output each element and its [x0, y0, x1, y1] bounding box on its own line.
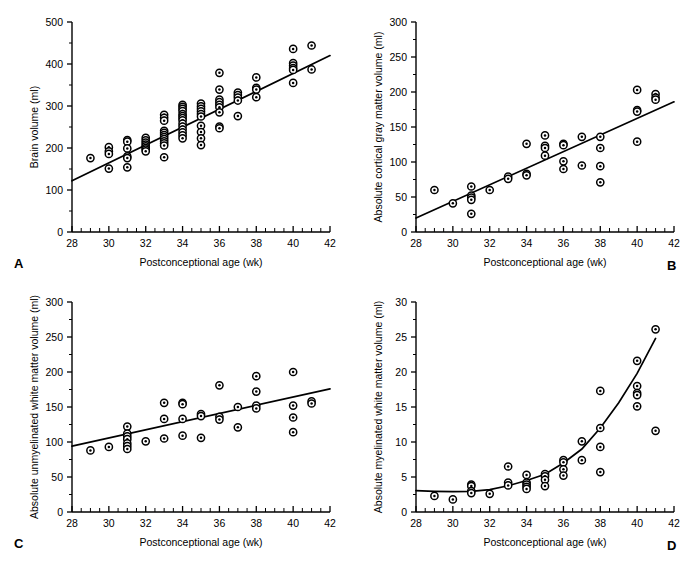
data-point-marker [216, 125, 223, 132]
y-tick-label: 0 [401, 506, 407, 518]
data-point-marker [578, 162, 585, 169]
y-tick-label: 50 [51, 471, 63, 483]
y-axis-title: Absolute cortical gray matter volume (ml… [372, 32, 384, 223]
data-point-marker [253, 373, 260, 380]
data-point-marker [234, 424, 241, 431]
x-tick-label: 32 [140, 237, 152, 249]
data-point-marker [216, 69, 223, 76]
y-tick-label: 50 [395, 191, 407, 203]
chart-panel-c: 0501001502002503002830323436384042Postco… [0, 280, 348, 563]
y-tick-label: 300 [45, 296, 63, 308]
scatter-plot-a: 01002003004005002830323436384042Postconc… [0, 0, 348, 283]
y-tick-label: 10 [395, 436, 407, 448]
scatter-plot-c: 0501001502002503002830323436384042Postco… [0, 280, 348, 563]
data-point-marker [161, 399, 168, 406]
data-point-marker [234, 97, 241, 104]
data-point-marker [578, 133, 585, 140]
data-point-marker [124, 423, 131, 430]
data-point-marker [578, 457, 585, 464]
y-tick-label: 0 [401, 226, 407, 238]
x-tick-label: 42 [668, 237, 680, 249]
data-point-marker [124, 145, 131, 152]
x-tick-label: 34 [521, 237, 533, 249]
data-point-marker [560, 142, 567, 149]
y-tick-label: 0 [57, 226, 63, 238]
figure-panel-grid: 01002003004005002830323436384042Postconc… [0, 0, 698, 563]
data-point-marker [597, 144, 604, 151]
data-point-marker [634, 108, 641, 115]
scatter-plot-d: 0510152025302830323436384042Postconcepti… [344, 280, 692, 563]
data-point-marker [87, 154, 94, 161]
x-tick-label: 36 [558, 517, 570, 529]
data-point-marker [597, 424, 604, 431]
x-axis-ticks: 2830323436384042 [66, 226, 336, 249]
data-point-marker [290, 402, 297, 409]
data-point-marker [652, 427, 659, 434]
x-axis-ticks: 2830323436384042 [66, 506, 336, 529]
data-point-marker [142, 438, 149, 445]
x-tick-label: 40 [631, 517, 643, 529]
y-tick-label: 150 [389, 121, 407, 133]
data-point-marker [234, 112, 241, 119]
data-point-marker [449, 200, 456, 207]
y-axis-title: Brain volume (ml) [28, 86, 40, 168]
y-tick-label: 250 [45, 331, 63, 343]
x-axis-ticks: 2830323436384042 [410, 226, 680, 249]
x-tick-label: 38 [250, 517, 262, 529]
data-point-marker [597, 443, 604, 450]
y-tick-label: 200 [45, 366, 63, 378]
y-axis-title: Absolute unmyelinated white matter volum… [28, 295, 40, 519]
x-tick-label: 32 [484, 237, 496, 249]
chart-panel-d: 0510152025302830323436384042Postconcepti… [344, 280, 692, 563]
data-point-marker [597, 133, 604, 140]
y-tick-label: 5 [401, 471, 407, 483]
y-tick-label: 200 [45, 142, 63, 154]
data-point-marker [105, 165, 112, 172]
x-tick-label: 28 [410, 517, 422, 529]
data-point-marker [634, 86, 641, 93]
data-point-marker [468, 183, 475, 190]
data-point-marker [290, 45, 297, 52]
x-tick-label: 36 [214, 517, 226, 529]
data-point-marker [179, 401, 186, 408]
y-tick-label: 300 [389, 16, 407, 28]
data-point-marker [634, 392, 641, 399]
x-tick-label: 30 [103, 237, 115, 249]
x-tick-label: 34 [177, 517, 189, 529]
data-point-marker [290, 66, 297, 73]
data-point-marker [179, 135, 186, 142]
data-point-marker [253, 86, 260, 93]
data-points [431, 326, 659, 503]
data-point-marker [652, 326, 659, 333]
data-point-marker [541, 144, 548, 151]
data-point-marker [308, 400, 315, 407]
y-tick-label: 400 [45, 58, 63, 70]
x-tick-label: 36 [214, 237, 226, 249]
x-axis-title: Postconceptional age (wk) [483, 536, 606, 548]
data-points [87, 368, 315, 454]
data-point-marker [216, 109, 223, 116]
panel-letter-d: D [667, 538, 676, 553]
data-point-marker [253, 94, 260, 101]
data-point-marker [216, 416, 223, 423]
data-point-marker [142, 148, 149, 155]
data-point-marker [560, 472, 567, 479]
panel-letter-c: C [14, 536, 23, 551]
panel-letter-b: B [667, 258, 676, 273]
y-tick-label: 250 [389, 51, 407, 63]
data-point-marker [523, 485, 530, 492]
data-point-marker [87, 447, 94, 454]
data-point-marker [486, 490, 493, 497]
panel-letter-a: A [14, 256, 23, 271]
data-point-marker [124, 445, 131, 452]
data-point-marker [105, 443, 112, 450]
data-point-marker [161, 117, 168, 124]
data-point-marker [308, 66, 315, 73]
y-tick-label: 0 [57, 506, 63, 518]
data-point-marker [431, 186, 438, 193]
data-point-marker [290, 368, 297, 375]
y-axis-ticks: 050100150200250300 [389, 16, 416, 238]
x-tick-label: 42 [324, 237, 336, 249]
y-tick-label: 150 [45, 401, 63, 413]
data-point-marker [216, 86, 223, 93]
